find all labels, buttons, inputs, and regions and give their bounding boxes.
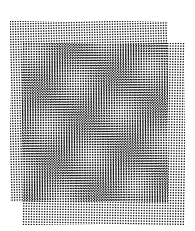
moire-pattern-image: Overlapping halftone dot grids forming a… (0, 0, 195, 231)
moire-pattern-canvas (0, 0, 195, 231)
